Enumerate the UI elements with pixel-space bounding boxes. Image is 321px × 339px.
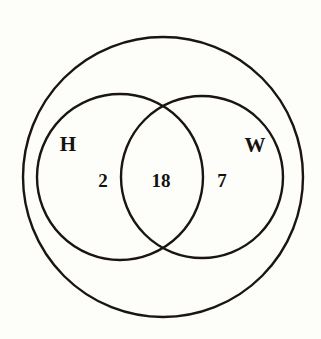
venn-diagram-figure: H W 2 18 7 [0,0,321,339]
region-h-only-value: 2 [98,170,108,191]
venn-diagram-canvas: H W 2 18 7 [0,0,321,339]
region-intersection-value: 18 [152,170,171,191]
set-w-label: W [245,133,266,157]
region-w-only-value: 7 [217,170,227,191]
set-h-label: H [60,132,76,156]
